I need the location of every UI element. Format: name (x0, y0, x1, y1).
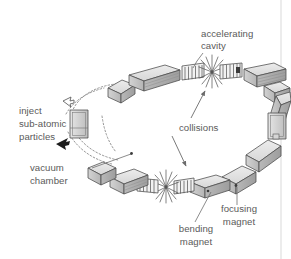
label-collisions: collisions (179, 122, 219, 133)
vacuum-chamber-line1: vacuum (30, 162, 64, 173)
bending-magnet-right-lower (246, 140, 281, 172)
accelerator-ring-diagram: accelerating cavity inject sub-atomic pa… (0, 0, 291, 259)
inject-line2: sub-atomic (19, 118, 67, 129)
arrow-collisions-lower (172, 136, 186, 166)
label-focusing-magnet: focusing magnet (221, 203, 257, 227)
leader-vacuum-chamber (92, 152, 133, 168)
accelerating-cavity-line1: accelerating (201, 28, 253, 39)
arrow-collisions-upper (191, 91, 205, 118)
bending-magnet-top-left-long (129, 65, 180, 91)
inject-line3: particles (19, 131, 55, 142)
accelerating-cavity-top-right (220, 63, 242, 79)
accelerating-cavity-bottom-right (174, 178, 194, 194)
label-inject-sub-atomic-particles: inject sub-atomic particles (19, 105, 67, 142)
label-vacuum-chamber: vacuum chamber (30, 162, 68, 186)
bending-magnet-line1: bending (179, 223, 214, 234)
diagram-canvas: accelerating cavity inject sub-atomic pa… (0, 0, 291, 259)
focusing-magnet-line1: focusing (221, 203, 257, 214)
inject-line1: inject (19, 105, 42, 116)
vacuum-chamber-line2: chamber (30, 175, 68, 186)
injection-arrow-solid-icon (56, 138, 70, 150)
label-accelerating-cavity: accelerating cavity (201, 28, 253, 51)
bending-magnet-line2: magnet (180, 236, 213, 247)
accelerating-cavity-line2: cavity (201, 40, 226, 51)
focusing-magnet-line2: magnet (223, 216, 256, 227)
vacuum-chamber-right (268, 113, 286, 139)
vacuum-chamber-left-injection (70, 110, 88, 138)
collisions-text: collisions (179, 122, 219, 133)
label-bending-magnet: bending magnet (179, 223, 214, 247)
